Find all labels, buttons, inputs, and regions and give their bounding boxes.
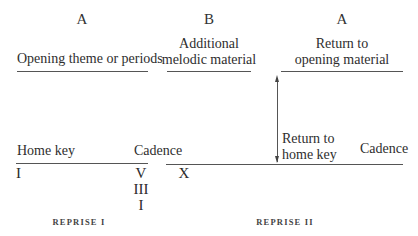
arrow-down-icon xyxy=(275,156,279,163)
section-a-description: Opening theme or periods xyxy=(17,52,163,66)
section-b-description-line2: melodic material xyxy=(162,53,256,67)
return-home-key-line1: Return to xyxy=(282,132,335,146)
return-home-key-line2: home key xyxy=(282,148,337,162)
b-section-key-x: X xyxy=(179,166,190,181)
section-a-return-description-line1: Return to xyxy=(316,37,369,51)
return-arrow-shaft xyxy=(277,78,278,162)
harmony-start-numeral: I xyxy=(16,166,21,181)
cadence-numeral-i: I xyxy=(139,198,144,213)
home-key-label: Home key xyxy=(17,144,75,158)
cadence-numeral-v: V xyxy=(136,166,147,181)
section-a-return-description-line2: opening material xyxy=(295,53,389,67)
section-b-description-line1: Additional xyxy=(179,37,239,51)
section-a-return-line xyxy=(281,71,403,72)
reprise-2-line xyxy=(166,164,403,165)
reprise-1-caption: REPRISE I xyxy=(52,218,105,227)
cadence-numeral-iii: III xyxy=(134,182,149,197)
section-a-return-letter: A xyxy=(337,12,348,27)
section-a-letter: A xyxy=(77,12,88,27)
cadence-label-2: Cadence xyxy=(360,142,408,156)
reprise-2-caption: REPRISE II xyxy=(256,218,314,227)
section-b-line xyxy=(167,71,251,72)
reprise-1-line xyxy=(16,163,148,164)
cadence-label-1: Cadence xyxy=(134,144,182,158)
arrow-up-icon xyxy=(275,75,279,82)
section-a-line xyxy=(17,71,148,72)
section-b-letter: B xyxy=(204,12,214,27)
